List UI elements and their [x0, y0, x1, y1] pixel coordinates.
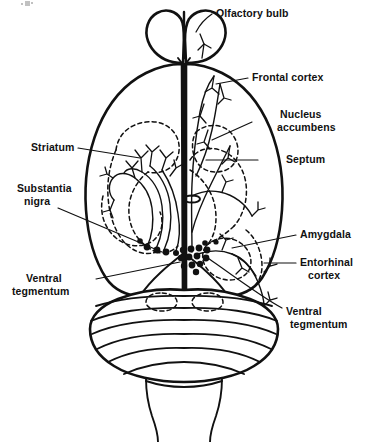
- vta-cell-6: [186, 254, 193, 261]
- sn-cell-5: [173, 250, 179, 256]
- label-septum: Septum: [286, 153, 325, 165]
- label-ventral-tegmentum-right-line1: Ventral: [286, 305, 322, 317]
- label-ventral-tegmentum-right-line2: tegmentum: [290, 318, 348, 330]
- label-ventral-tegmentum-left-line2: tegmentum: [12, 285, 70, 297]
- cerebellum-structure: [90, 289, 278, 382]
- vta-cell-3: [196, 245, 203, 252]
- sn-cell-3: [163, 249, 170, 256]
- vta-cell-2: [188, 246, 195, 253]
- label-nucleus-accumbens-line2: accumbens: [277, 121, 336, 133]
- label-substantia-nigra-line1: Substantia: [17, 182, 72, 194]
- label-amygdala: Amygdala: [300, 228, 351, 240]
- brainstem-structure: [146, 378, 222, 442]
- vta-cell-12: [193, 269, 199, 275]
- vta-cell-7: [194, 253, 201, 260]
- vta-cell-11: [197, 261, 203, 267]
- scan-smudge-artifact: [21, 1, 33, 6]
- brainstem-left-edge: [146, 378, 158, 442]
- vta-cell-5: [178, 255, 184, 261]
- label-ventral-tegmentum-left-line1: Ventral: [26, 272, 62, 284]
- vta-cell-1: [180, 247, 186, 253]
- label-entorhinal-cortex-line2: cortex: [308, 269, 340, 281]
- vta-cell-14: [213, 239, 218, 244]
- olfactory-bulb-structure: [146, 11, 225, 63]
- label-frontal-cortex: Frontal cortex: [252, 71, 323, 83]
- vta-cell-4: [204, 247, 211, 254]
- label-entorhinal-cortex-line1: Entorhinal: [300, 256, 353, 268]
- brainstem-right-edge: [210, 378, 222, 442]
- brain-diagram-figure: Olfactory bulb Frontal cortex Nucleus ac…: [0, 0, 366, 442]
- vta-cell-10: [189, 262, 196, 269]
- cerebellum-outline: [90, 289, 278, 382]
- label-striatum: Striatum: [31, 141, 74, 153]
- vta-cell-13: [202, 240, 208, 246]
- vta-cell-9: [181, 263, 187, 269]
- rat-brain-dorsal-view-svg: Olfactory bulb Frontal cortex Nucleus ac…: [0, 0, 366, 442]
- olfactory-bulb-left: [146, 11, 184, 63]
- label-substantia-nigra-line2: nigra: [24, 195, 50, 207]
- label-nucleus-accumbens-line1: Nucleus: [280, 108, 322, 120]
- label-olfactory-bulb: Olfactory bulb: [216, 7, 289, 19]
